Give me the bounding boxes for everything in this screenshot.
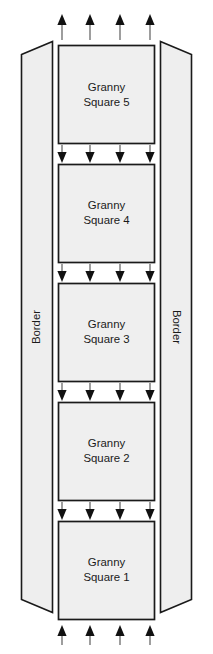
arrow-down-5-4-1 — [57, 145, 66, 163]
arrow-up-4 — [145, 14, 154, 40]
granny-square-2-label-line2: Square 2 — [83, 452, 129, 464]
arrow-row-2-1 — [57, 502, 154, 520]
arrow-down-4-3-1 — [57, 264, 66, 282]
granny-square-3: Granny Square 3 — [59, 284, 155, 382]
right-border-label: Border — [171, 310, 183, 344]
arrow-down-2-1-1 — [57, 502, 66, 520]
granny-square-4-label-line2: Square 4 — [83, 214, 129, 226]
arrow-bottom-up-2 — [85, 625, 94, 645]
arrow-down-3-2-3 — [115, 383, 124, 401]
arrow-row-3-2 — [57, 383, 154, 401]
granny-square-5-label-line2: Square 5 — [83, 96, 129, 108]
arrow-up-2 — [85, 14, 94, 40]
diagram-canvas: Border Border — [0, 0, 213, 654]
arrow-down-2-1-3 — [115, 502, 124, 520]
arrow-down-3-2-2 — [85, 383, 94, 401]
arrow-row-top — [57, 14, 154, 40]
granny-square-5-label-line1: Granny — [88, 81, 126, 93]
arrow-down-5-4-2 — [85, 145, 94, 163]
arrow-down-3-2-4 — [145, 383, 154, 401]
arrow-down-4-3-3 — [115, 264, 124, 282]
arrow-up-1 — [57, 14, 66, 40]
arrow-up-3 — [115, 14, 124, 40]
granny-square-2: Granny Square 2 — [59, 403, 155, 501]
arrow-bottom-up-4 — [145, 625, 154, 645]
granny-square-5: Granny Square 5 — [59, 46, 155, 144]
left-border-label: Border — [30, 310, 42, 344]
granny-square-diagram: Border Border — [0, 0, 213, 654]
granny-square-5-shape — [59, 46, 155, 144]
arrow-down-3-2-1 — [57, 383, 66, 401]
arrow-down-2-1-2 — [85, 502, 94, 520]
arrow-bottom-up-1 — [57, 625, 66, 645]
arrow-row-5-4 — [57, 145, 154, 163]
granny-square-4-label-line1: Granny — [88, 199, 126, 211]
arrow-bottom-up-3 — [115, 625, 124, 645]
granny-square-1: Granny Square 1 — [59, 522, 155, 620]
granny-square-4: Granny Square 4 — [59, 165, 155, 263]
arrow-down-4-3-2 — [85, 264, 94, 282]
granny-square-3-label-line1: Granny — [88, 318, 126, 330]
granny-square-2-label-line1: Granny — [88, 437, 126, 449]
granny-square-1-label-line1: Granny — [88, 556, 126, 568]
granny-square-3-label-line2: Square 3 — [83, 333, 129, 345]
arrow-down-5-4-4 — [145, 145, 154, 163]
arrow-down-4-3-4 — [145, 264, 154, 282]
left-border-panel: Border — [22, 42, 53, 613]
arrow-down-2-1-4 — [145, 502, 154, 520]
arrow-down-5-4-3 — [115, 145, 124, 163]
arrow-row-bottom — [57, 625, 154, 645]
granny-square-1-label-line2: Square 1 — [83, 571, 129, 583]
right-border-panel: Border — [161, 42, 192, 613]
arrow-row-4-3 — [57, 264, 154, 282]
